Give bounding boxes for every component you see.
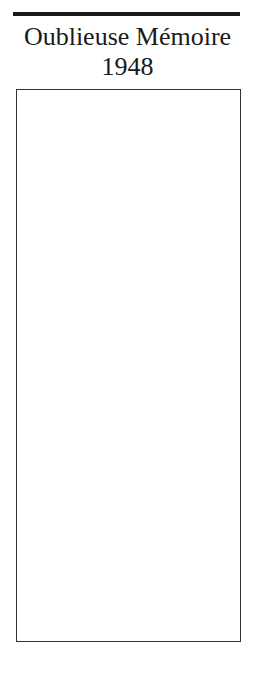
top-rule bbox=[13, 12, 240, 16]
empty-frame bbox=[16, 89, 241, 642]
document-year: 1948 bbox=[0, 52, 255, 82]
document-title: Oublieuse Mémoire bbox=[0, 22, 255, 52]
